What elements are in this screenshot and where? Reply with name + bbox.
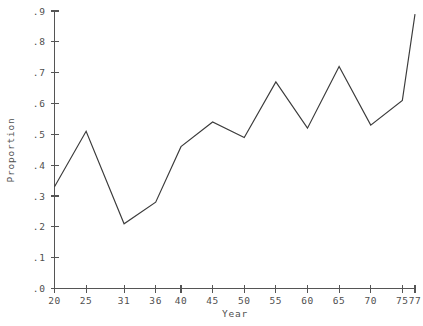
y-tick-label: .9 xyxy=(33,6,46,17)
x-tick-label: 65 xyxy=(333,295,346,306)
y-tick-label: .1 xyxy=(33,252,46,263)
x-tick-label: 50 xyxy=(238,295,251,306)
y-tick-label: .0 xyxy=(33,283,46,294)
x-tick-label: 55 xyxy=(270,295,283,306)
chart-canvas: .0.1.2.3.4.5.6.7.8.9 2025313640455055606… xyxy=(0,0,423,326)
x-tick-label: 77 xyxy=(409,295,422,306)
x-tick-label: 70 xyxy=(364,295,377,306)
x-tick-label: 25 xyxy=(80,295,93,306)
y-tick-label: .2 xyxy=(33,221,46,232)
y-tick-label: .3 xyxy=(33,191,46,202)
x-tick-label: 36 xyxy=(149,295,162,306)
y-tick-label: .4 xyxy=(33,160,46,171)
data-series-line xyxy=(55,14,416,224)
x-tick-label: 60 xyxy=(301,295,314,306)
x-axis-title: Year xyxy=(222,308,248,319)
y-tick-label: .7 xyxy=(33,67,46,78)
x-tick-label: 40 xyxy=(175,295,188,306)
x-tick-label: 20 xyxy=(48,295,61,306)
y-tick-label: .5 xyxy=(33,129,46,140)
line-chart: .0.1.2.3.4.5.6.7.8.9 2025313640455055606… xyxy=(0,0,423,326)
x-tick-group: 20253136404550556065707577 xyxy=(48,285,421,306)
y-tick-label: .6 xyxy=(33,98,46,109)
y-axis-title: Proportion xyxy=(5,117,16,182)
y-tick-label: .8 xyxy=(33,36,46,47)
x-tick-label: 75 xyxy=(396,295,409,306)
x-tick-label: 31 xyxy=(118,295,131,306)
x-tick-label: 45 xyxy=(206,295,219,306)
